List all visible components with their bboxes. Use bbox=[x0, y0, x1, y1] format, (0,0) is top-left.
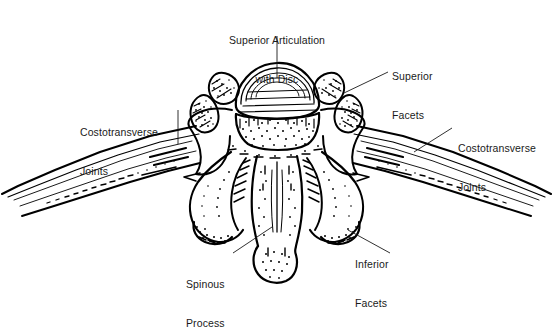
label-costotransverse-right-line1: Costotransverse bbox=[458, 142, 536, 155]
label-costotransverse-right-line2: Joints bbox=[458, 181, 536, 194]
label-inferior-facets-line1: Inferior bbox=[355, 258, 388, 271]
label-superior-facets-line1: Superior bbox=[392, 70, 433, 83]
label-costotransverse-right: Costotransverse Joints bbox=[458, 116, 536, 207]
label-superior-facets: Superior Facets bbox=[392, 44, 433, 135]
label-costotransverse-left-line1: Costotransverse bbox=[80, 126, 158, 139]
label-spinous-process: Spinous Process bbox=[186, 252, 225, 331]
label-superior-articulation: Superior Articulation with Disc bbox=[207, 8, 347, 99]
label-inferior-facets: Inferior Facets bbox=[355, 232, 388, 323]
label-costotransverse-left-line2: Joints bbox=[80, 165, 158, 178]
label-spinous-process-line1: Spinous bbox=[186, 278, 225, 291]
label-superior-articulation-line2: with Disc bbox=[207, 73, 347, 86]
label-superior-facets-line2: Facets bbox=[392, 109, 433, 122]
label-spinous-process-line2: Process bbox=[186, 317, 225, 330]
label-superior-articulation-line1: Superior Articulation bbox=[207, 34, 347, 47]
label-costotransverse-left: Costotransverse Joints bbox=[80, 100, 158, 191]
label-inferior-facets-line2: Facets bbox=[355, 297, 388, 310]
